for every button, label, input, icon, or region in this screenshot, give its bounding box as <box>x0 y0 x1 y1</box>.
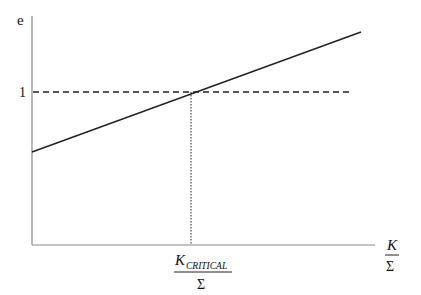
critical-k-denominator: Σ <box>197 277 205 292</box>
critical-k-label: K CRITICAL Σ <box>174 252 232 292</box>
x-axis-numerator: K <box>386 237 398 253</box>
x-axis-denominator: Σ <box>386 259 394 274</box>
e-rising-line <box>32 32 361 152</box>
diagram: e 1 K CRITICAL Σ K Σ <box>0 0 421 295</box>
x-axis-label: K Σ <box>385 237 399 274</box>
critical-k-subscript: CRITICAL <box>186 261 227 271</box>
y-axis-label: e <box>17 12 24 28</box>
critical-k-numerator: K <box>174 252 186 268</box>
y-tick-one-label: 1 <box>19 85 26 100</box>
